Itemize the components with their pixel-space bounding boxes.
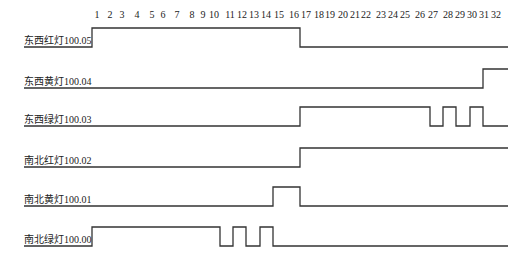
signal-waveform xyxy=(24,107,508,126)
timing-waveforms xyxy=(0,0,531,271)
signal-waveform xyxy=(24,227,508,246)
signal-waveform xyxy=(24,187,508,206)
signal-waveform xyxy=(24,69,508,88)
signal-waveform xyxy=(24,28,508,47)
signal-waveform xyxy=(24,148,508,167)
